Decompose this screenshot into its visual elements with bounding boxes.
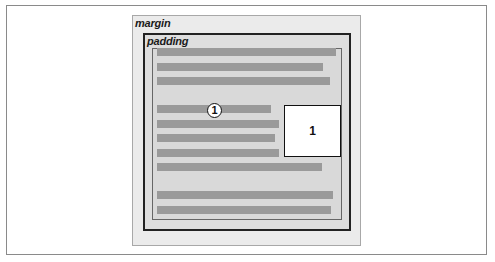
- text-line: [157, 163, 322, 171]
- margin-label: margin: [135, 17, 170, 29]
- text-line: [157, 77, 330, 85]
- callout-number-icon: 1: [207, 103, 222, 118]
- text-line: [157, 149, 279, 157]
- text-line: [157, 134, 275, 142]
- text-line: [157, 63, 323, 71]
- text-line: [157, 48, 336, 56]
- callout-label: 1: [211, 105, 217, 116]
- floated-element-label: 1: [309, 124, 316, 138]
- text-line: [157, 191, 333, 199]
- padding-label: padding: [147, 35, 188, 47]
- text-line: [157, 206, 331, 214]
- floated-element: 1: [284, 105, 341, 157]
- text-line: [157, 120, 279, 128]
